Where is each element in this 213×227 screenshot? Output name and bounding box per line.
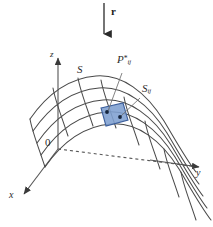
axis-z-label: z (50, 50, 54, 59)
patch-label-subscript: ij (148, 87, 152, 94)
figure-canvas (0, 0, 213, 227)
surface-mesh-u-lines (30, 76, 211, 220)
vector-r-label: r (111, 6, 116, 17)
surface-integral-figure: r S z y x 0 P*ij Sij (0, 0, 213, 227)
surface-mesh-v-lines (30, 78, 196, 220)
patch-label-sij: Sij (142, 83, 151, 95)
sample-point-label: P*ij (117, 54, 131, 66)
axis-y-label: y (196, 168, 200, 178)
sample-point-subscript: ij (128, 58, 132, 65)
surface-patch-sij (101, 103, 128, 126)
origin-label: 0 (45, 137, 51, 148)
axis-x-label: x (9, 190, 13, 200)
surface-label-s: S (77, 64, 83, 75)
sample-point-base: P (117, 53, 124, 65)
